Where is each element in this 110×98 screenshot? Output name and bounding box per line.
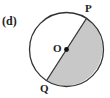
circle-figure: (d) P Q O: [0, 0, 110, 98]
center-point-o: [64, 47, 69, 52]
point-label-o: O: [53, 42, 62, 54]
point-label-q: Q: [40, 82, 49, 94]
point-label-p: P: [85, 2, 92, 14]
